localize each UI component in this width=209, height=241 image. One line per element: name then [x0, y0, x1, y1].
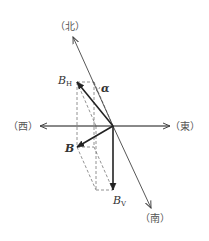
vector-b — [77, 126, 113, 147]
label-bh: BH — [57, 74, 72, 88]
magnetic-field-diagram: （北） （西） （東） （南） BH B BV α — [0, 0, 209, 241]
label-bv: BV — [112, 194, 127, 208]
label-east: （東） — [170, 120, 200, 132]
label-west: （西） — [8, 121, 38, 132]
label-south: （南） — [140, 212, 170, 224]
label-b: B — [64, 142, 74, 155]
label-alpha: α — [101, 82, 110, 95]
label-north: （北） — [55, 21, 85, 32]
